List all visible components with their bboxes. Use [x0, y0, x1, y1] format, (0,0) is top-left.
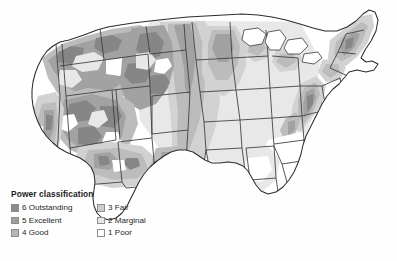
legend-swatch-class-4 — [11, 229, 19, 237]
legend-title: Power classification — [11, 189, 163, 199]
legend-swatch-class-2 — [97, 217, 105, 225]
map-legend: Power classification 6 Outstanding 5 Exc… — [11, 189, 163, 238]
legend-label-class-5: 5 Excellent — [22, 216, 62, 226]
legend-label-class-4: 4 Good — [22, 228, 49, 238]
legend-label-class-2: 2 Marginal — [108, 216, 146, 226]
legend-columns: 6 Outstanding 5 Excellent 4 Good 3 Fair — [11, 203, 163, 238]
legend-item-class-2[interactable]: 2 Marginal — [97, 216, 163, 226]
legend-item-class-3[interactable]: 3 Fair — [97, 203, 163, 213]
legend-swatch-class-1 — [97, 229, 105, 237]
legend-item-class-5[interactable]: 5 Excellent — [11, 216, 97, 226]
legend-swatch-class-3 — [97, 204, 105, 212]
legend-item-class-1[interactable]: 1 Poor — [97, 228, 163, 238]
legend-swatch-class-5 — [11, 217, 19, 225]
wind-power-classification-figure: .c1{fill:#ffffff} .c2{fill:#e8e8e8} .c3{… — [0, 0, 397, 261]
legend-column-left: 6 Outstanding 5 Excellent 4 Good — [11, 203, 97, 238]
legend-label-class-1: 1 Poor — [108, 228, 132, 238]
legend-swatch-class-6 — [11, 204, 19, 212]
legend-item-class-4[interactable]: 4 Good — [11, 228, 97, 238]
legend-item-class-6[interactable]: 6 Outstanding — [11, 203, 97, 213]
legend-column-right: 3 Fair 2 Marginal 1 Poor — [97, 203, 163, 238]
legend-label-class-3: 3 Fair — [108, 203, 129, 213]
legend-label-class-6: 6 Outstanding — [22, 203, 72, 213]
